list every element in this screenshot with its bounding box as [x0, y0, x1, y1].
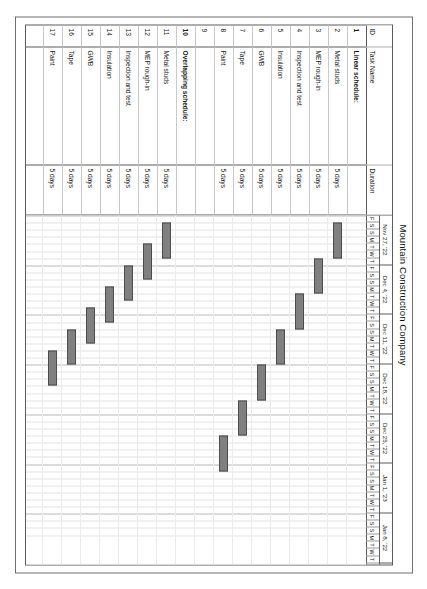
table-cell-task-name[interactable]: Paint	[43, 47, 62, 164]
table-cell-task-name[interactable]	[195, 47, 214, 164]
gantt-bar[interactable]	[48, 350, 57, 386]
table-cell-duration[interactable]: 5 days	[62, 165, 81, 214]
table-cell-duration[interactable]: 5 days	[252, 165, 271, 214]
timeline-gridline	[26, 513, 366, 514]
table-cell-id[interactable]: 14	[100, 25, 119, 46]
timeline-day-label: S	[366, 520, 379, 527]
gantt-bar[interactable]	[295, 293, 304, 329]
gantt-bar[interactable]	[143, 243, 152, 279]
table-cell-duration[interactable]: 5 days	[157, 165, 176, 214]
table-cell-task-name[interactable]: Tape	[233, 47, 252, 164]
table-cell-id[interactable]: 6	[252, 25, 271, 46]
table-cell-task-name[interactable]: Inspection and test	[290, 47, 309, 164]
table-cell-duration[interactable]: 5 days	[214, 165, 233, 214]
gantt-bar[interactable]	[257, 364, 266, 400]
table-cell-duration[interactable]: 5 days	[43, 165, 62, 214]
table-cell-duration[interactable]: 5 days	[119, 165, 138, 214]
table-cell-id[interactable]: 16	[62, 25, 81, 46]
column-header-duration: Duration	[366, 165, 392, 214]
gantt-bar[interactable]	[314, 258, 323, 294]
table-cell-duration[interactable]	[176, 165, 195, 214]
timeline-row-separator	[99, 215, 100, 564]
table-cell-task-name[interactable]: Metal studs	[328, 47, 347, 164]
table-cell-task-name[interactable]: Metal studs	[157, 47, 176, 164]
gantt-bar[interactable]	[162, 222, 171, 258]
gantt-bar[interactable]	[105, 286, 114, 322]
gantt-bar[interactable]	[219, 435, 228, 471]
timeline-gridline	[26, 478, 366, 479]
table-cell-duration[interactable]	[347, 165, 366, 214]
table-cell-duration[interactable]: 5 days	[290, 165, 309, 214]
table-cell-task-name[interactable]: Tape	[62, 47, 81, 164]
table-cell-duration[interactable]	[195, 165, 214, 214]
timeline-day-label: T	[366, 506, 379, 513]
table-cell-id[interactable]: 3	[309, 25, 328, 46]
table-cell-id[interactable]: 10	[176, 25, 195, 46]
table-cell-id[interactable]: 11	[157, 25, 176, 46]
table-cell-id[interactable]: 4	[290, 25, 309, 46]
timeline-day-label: S	[366, 272, 379, 279]
table-cell-id[interactable]: 13	[119, 25, 138, 46]
table-cell-duration[interactable]: 5 days	[309, 165, 328, 214]
table-cell-task-name[interactable]: MEP rough-in	[138, 47, 157, 164]
table-cell-id[interactable]: 17	[43, 25, 62, 46]
timeline-gridline	[26, 428, 366, 429]
table-cell-id[interactable]: 9	[195, 25, 214, 46]
timeline-day-label: S	[366, 222, 379, 229]
timeline-day-label: S	[366, 527, 379, 534]
timeline-gridline	[26, 329, 366, 330]
timeline-gridline	[26, 407, 366, 408]
table-cell-task-name[interactable]: Insulation	[100, 47, 119, 164]
timeline-gridline	[26, 364, 366, 365]
gantt-bar[interactable]	[276, 329, 285, 365]
table-cell-duration[interactable]: 5 days	[81, 165, 100, 214]
timeline-row-separator	[156, 215, 157, 564]
gantt-bar[interactable]	[67, 329, 76, 365]
timeline-gridline	[26, 357, 366, 358]
table-cell-id[interactable]: 5	[271, 25, 290, 46]
timeline-gridline	[26, 506, 366, 507]
table-cell-id[interactable]: 7	[233, 25, 252, 46]
table-cell-task-name[interactable]: Overlapping schedule:	[176, 47, 195, 164]
gantt-bar[interactable]	[333, 222, 342, 258]
table-cell-id[interactable]: 8	[214, 25, 233, 46]
table-cell-id[interactable]: 1	[347, 25, 366, 46]
timeline-day-row: FSSMTWTFSSMTWTFSSMTWTFSSMTWTFSSMTWTFSSMT…	[366, 215, 379, 564]
table-cell-task-name[interactable]: Insulation	[271, 47, 290, 164]
timeline-day-label: F	[366, 314, 379, 321]
table-cell-task-name[interactable]: GWB	[252, 47, 271, 164]
timeline-row-separator	[137, 215, 138, 564]
table-cell-duration[interactable]: 5 days	[328, 165, 347, 214]
table-cell-task-name[interactable]: Linear schedule:	[347, 47, 366, 164]
table-cell-duration[interactable]: 5 days	[271, 165, 290, 214]
timeline-day-label: M	[366, 534, 379, 541]
timeline-row-separator	[327, 215, 328, 564]
timeline-day-label: S	[366, 321, 379, 328]
timeline-day-label: S	[366, 421, 379, 428]
timeline-day-label: W	[366, 300, 379, 307]
timeline-week-label: Dec 25, '22	[380, 414, 392, 464]
timeline-header: Nov 27, '22Dec 4, '22Dec 11, '22Dec 18, …	[366, 215, 392, 564]
timeline-gridline	[26, 307, 366, 308]
gantt-bar[interactable]	[86, 307, 95, 343]
gantt-bar[interactable]	[238, 400, 247, 436]
column-header-task-name: Task Name	[366, 47, 392, 164]
task-table: ID 1234567891011121314151617 Task Name L…	[26, 25, 392, 215]
timeline-gridline	[26, 449, 366, 450]
timeline-gridline	[26, 350, 366, 351]
table-cell-task-name[interactable]: GWB	[81, 47, 100, 164]
timeline-day-label: W	[366, 350, 379, 357]
table-cell-duration[interactable]: 5 days	[233, 165, 252, 214]
table-cell-duration[interactable]: 5 days	[138, 165, 157, 214]
timeline-day-label: F	[366, 215, 379, 222]
table-cell-id[interactable]: 12	[138, 25, 157, 46]
table-cell-task-name[interactable]: MEP rough-in	[309, 47, 328, 164]
table-cell-duration[interactable]: 5 days	[100, 165, 119, 214]
gantt-bar[interactable]	[124, 265, 133, 301]
table-cell-id[interactable]: 15	[81, 25, 100, 46]
timeline-day-label: S	[366, 371, 379, 378]
table-cell-id[interactable]: 2	[328, 25, 347, 46]
table-cell-task-name[interactable]: Paint	[214, 47, 233, 164]
timeline-gridline	[26, 499, 366, 500]
table-cell-task-name[interactable]: Inspection and test	[119, 47, 138, 164]
